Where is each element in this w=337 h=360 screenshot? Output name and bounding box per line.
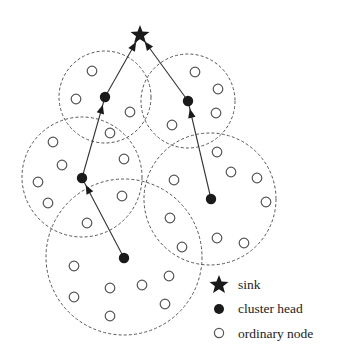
ordinary-node bbox=[33, 177, 43, 187]
ordinary-node bbox=[261, 197, 271, 207]
ordinary-node bbox=[239, 238, 249, 248]
cluster-head bbox=[100, 92, 110, 102]
ordinary-node bbox=[160, 299, 170, 309]
ordinary-node bbox=[105, 311, 115, 321]
ordinary-node bbox=[125, 107, 135, 117]
cluster-head bbox=[77, 173, 87, 183]
star-icon bbox=[130, 25, 149, 43]
cluster-head bbox=[119, 253, 129, 263]
arrowhead-icon bbox=[188, 109, 195, 119]
legend-label: sink bbox=[238, 278, 261, 292]
cluster-head bbox=[183, 96, 193, 106]
legend-item-sink: sink bbox=[208, 272, 313, 297]
sink-node bbox=[130, 25, 149, 43]
ordinary-node bbox=[82, 218, 92, 228]
arrowhead-icon bbox=[128, 42, 136, 52]
ordinary-node bbox=[211, 108, 221, 118]
ordinary-node bbox=[105, 128, 115, 138]
ordinary-node bbox=[105, 283, 115, 293]
ordinary-node bbox=[57, 160, 67, 170]
ordinary-node bbox=[177, 242, 187, 252]
ordinary-node bbox=[190, 67, 200, 77]
ordinary-node bbox=[69, 292, 79, 302]
ordinary-node bbox=[165, 213, 175, 223]
legend-label: ordinary node bbox=[238, 327, 313, 341]
ordinary-node bbox=[43, 198, 53, 208]
filled-circle-icon bbox=[208, 299, 230, 319]
ordinary-node bbox=[167, 120, 177, 130]
ordinary-node bbox=[212, 233, 222, 243]
ordinary-node bbox=[164, 271, 174, 281]
ordinary-node bbox=[69, 261, 79, 271]
ordinary-node bbox=[119, 154, 129, 164]
legend: sink cluster head ordinary node bbox=[208, 272, 313, 346]
arrowhead-icon bbox=[97, 105, 104, 115]
hollow-circle-icon bbox=[208, 323, 230, 343]
legend-item-cluster-head: cluster head bbox=[208, 297, 313, 322]
ordinary-node bbox=[87, 66, 97, 76]
ordinary-node bbox=[71, 94, 81, 104]
ordinary-node bbox=[137, 280, 147, 290]
legend-label: cluster head bbox=[238, 302, 303, 316]
arrowhead-icon bbox=[145, 41, 153, 51]
star-icon bbox=[208, 274, 230, 294]
ordinary-node bbox=[117, 191, 127, 201]
ordinary-node bbox=[226, 167, 236, 177]
ordinary-node bbox=[213, 84, 223, 94]
legend-item-ordinary-node: ordinary node bbox=[208, 321, 313, 346]
ordinary-node bbox=[252, 173, 262, 183]
cluster-head bbox=[206, 194, 216, 204]
ordinary-node bbox=[212, 147, 222, 157]
ordinary-node bbox=[48, 137, 58, 147]
ordinary-node bbox=[169, 175, 179, 185]
